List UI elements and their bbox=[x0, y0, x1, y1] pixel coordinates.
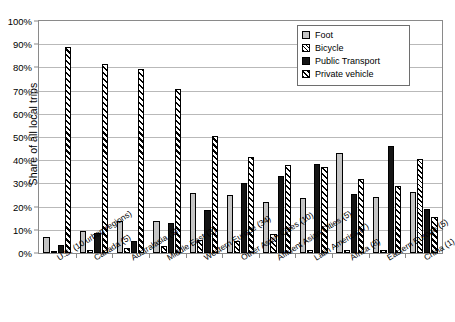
y-axis-tick-labels: 0%10%20%30%40%50%60%70%80%90%100% bbox=[0, 20, 36, 254]
bar-transport bbox=[278, 176, 284, 253]
y-axis-tick-label: 50% bbox=[13, 132, 32, 143]
legend: FootBicyclePublic TransportPrivate vehic… bbox=[297, 25, 410, 86]
bar-vehicle bbox=[248, 157, 254, 253]
bar-transport bbox=[241, 183, 247, 253]
bar-group bbox=[222, 21, 259, 253]
bar-vehicle bbox=[395, 186, 401, 253]
y-axis-tick-label: 90% bbox=[13, 39, 32, 50]
x-axis-tick-label: China (1) bbox=[422, 254, 427, 262]
bar-group bbox=[149, 21, 186, 253]
legend-swatch-transport bbox=[302, 57, 310, 65]
bar-vehicle bbox=[138, 69, 144, 253]
y-axis-tick-label: 30% bbox=[13, 178, 32, 189]
bar-group bbox=[405, 21, 442, 253]
y-axis-tick-label: 70% bbox=[13, 85, 32, 96]
y-axis-tick-label: 10% bbox=[13, 224, 32, 235]
legend-swatch-vehicle bbox=[302, 70, 310, 78]
x-axis-tick-label: Africa (8) bbox=[348, 254, 353, 262]
legend-swatch-foot bbox=[302, 31, 310, 39]
legend-item: Private vehicle bbox=[302, 68, 405, 80]
bar-group bbox=[186, 21, 223, 253]
x-axis-tick-label: Latin America (7) bbox=[312, 254, 317, 262]
y-axis-tick-label: 80% bbox=[13, 62, 32, 73]
x-axis-tick-label: Australasia (5) bbox=[129, 254, 134, 262]
bar-vehicle bbox=[65, 47, 71, 253]
bar-vehicle bbox=[285, 165, 291, 253]
x-axis-tick-label: Middle East (3) bbox=[165, 254, 170, 262]
x-axis-tick-label: Eastern Europe (5) bbox=[385, 254, 390, 262]
legend-label: Public Transport bbox=[315, 56, 380, 66]
bar-group bbox=[39, 21, 76, 253]
x-axis-tick-label: Canada (5) bbox=[92, 254, 97, 262]
bar-chart: Share of all local trips 0%10%20%30%40%5… bbox=[0, 0, 455, 322]
legend-item: Foot bbox=[302, 29, 405, 41]
x-axis-tick-label: Other Asian Cities (10) bbox=[239, 254, 244, 262]
x-axis-tick-label: U.S. (10 urban regions) bbox=[55, 254, 60, 262]
legend-item: Public Transport bbox=[302, 55, 405, 67]
bar-vehicle bbox=[321, 167, 327, 253]
legend-label: Private vehicle bbox=[315, 69, 374, 79]
y-axis-tick-label: 40% bbox=[13, 155, 32, 166]
bar-bicycle bbox=[124, 248, 130, 253]
legend-label: Bicycle bbox=[315, 43, 344, 53]
bar-transport bbox=[388, 146, 394, 253]
y-axis-tick-label: 20% bbox=[13, 201, 32, 212]
bar-vehicle bbox=[358, 179, 364, 253]
legend-label: Foot bbox=[315, 30, 333, 40]
x-axis-tick-labels: U.S. (10 urban regions)Canada (5)Austral… bbox=[0, 254, 455, 322]
y-axis-tick-label: 100% bbox=[8, 16, 32, 27]
x-axis-tick-label: Western Europe (34) bbox=[202, 254, 207, 262]
y-axis-tick-label: 60% bbox=[13, 108, 32, 119]
legend-item: Bicycle bbox=[302, 42, 405, 54]
x-axis-tick-label: Affluent Asian Cities (5) bbox=[275, 254, 280, 262]
bar-group bbox=[76, 21, 113, 253]
legend-swatch-bicycle bbox=[302, 44, 310, 52]
bar-transport bbox=[351, 194, 357, 253]
bar-foot bbox=[43, 237, 49, 253]
